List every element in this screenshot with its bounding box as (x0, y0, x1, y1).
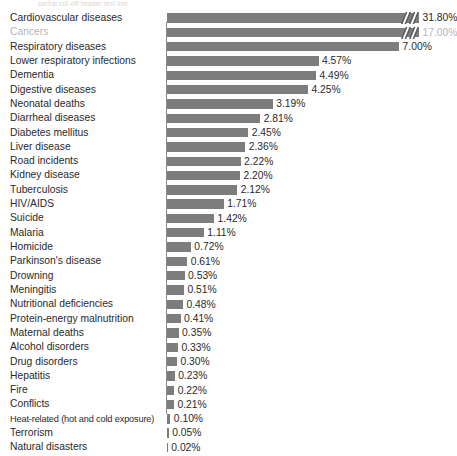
bar-value-label: 2.12% (237, 185, 270, 194)
bar-and-value: 0.22% (167, 386, 207, 395)
category-label: Heat-related (hot and cold exposure) (10, 412, 162, 426)
category-label: Malaria (10, 226, 162, 240)
bar (167, 214, 214, 223)
cut-off-header-text: partial cut-off header text line (38, 0, 438, 7)
bar-value-label: 3.19% (273, 99, 306, 108)
bar (167, 56, 319, 65)
bar-value-label: 2.45% (248, 128, 281, 137)
bar (167, 257, 187, 266)
bar-row: Malaria1.11% (0, 226, 446, 240)
category-label: Neonatal deaths (10, 97, 162, 111)
bar (167, 85, 308, 94)
bar-and-value: 0.05% (167, 428, 201, 437)
bar-and-value: 2.36% (167, 142, 278, 151)
category-label: Parkinson's disease (10, 254, 162, 268)
bar-and-value: 0.48% (167, 300, 216, 309)
bar-row: Lower respiratory infections4.57% (0, 54, 446, 68)
bar-row: Hepatitis0.23% (0, 369, 446, 383)
category-label: Meningitis (10, 283, 162, 297)
bar-value-label: 0.33% (178, 343, 211, 352)
bar-row: Drowning0.53% (0, 269, 446, 283)
bar-and-value: 3.19% (167, 99, 305, 108)
bar-value-label: 0.22% (174, 386, 207, 395)
bar-and-value: 0.72% (167, 242, 224, 251)
bar-row: Diarrheal diseases2.81% (0, 111, 446, 125)
bar (167, 142, 245, 151)
bar-value-label: 0.53% (185, 271, 218, 280)
category-label: Lower respiratory infections (10, 54, 162, 68)
bar (167, 328, 179, 337)
bar (167, 128, 248, 137)
bar-and-value: 4.25% (167, 85, 341, 94)
bar-row: Kidney disease2.20% (0, 168, 446, 182)
category-label: Drowning (10, 269, 162, 283)
bar (167, 314, 181, 323)
bar (167, 199, 224, 208)
bar-row: HIV/AIDS1.71% (0, 197, 446, 211)
bar-row: Diabetes mellitus2.45% (0, 126, 446, 140)
category-label: Homicide (10, 240, 162, 254)
bar-row: Cancers17.00% (0, 25, 446, 39)
bar-and-value: 2.20% (167, 171, 273, 180)
bar-and-value: 17.00% (167, 28, 457, 37)
bar-value-label: 4.49% (316, 71, 349, 80)
category-label: Diabetes mellitus (10, 126, 162, 140)
category-label: Cardiovascular diseases (10, 11, 162, 25)
bar-value-label: 1.71% (224, 199, 257, 208)
bar (167, 343, 178, 352)
bar (167, 71, 316, 80)
category-label: Alcohol disorders (10, 340, 162, 354)
bar-value-label: 17.00% (419, 28, 457, 37)
bar-and-value: 2.81% (167, 114, 293, 123)
bar-row: Tuberculosis2.12% (0, 183, 446, 197)
bar (167, 242, 191, 251)
bar (167, 171, 240, 180)
bar-value-label: 0.35% (179, 328, 212, 337)
bar-and-value: 0.02% (167, 443, 201, 452)
bar-and-value: 0.53% (167, 271, 217, 280)
bar-row: Homicide0.72% (0, 240, 446, 254)
bar-value-label: 2.22% (241, 157, 274, 166)
bar-and-value: 0.35% (167, 328, 211, 337)
bar-value-label: 2.20% (240, 171, 273, 180)
bar-and-value: 2.22% (167, 157, 273, 166)
category-label: Dementia (10, 68, 162, 82)
category-label: Maternal deaths (10, 326, 162, 340)
bar-value-label: 0.10% (170, 414, 203, 423)
bar (167, 271, 185, 280)
bar (167, 157, 241, 166)
bar-row: Maternal deaths0.35% (0, 326, 446, 340)
bar-and-value: 1.11% (167, 228, 236, 237)
bar (167, 400, 174, 409)
bar (167, 114, 260, 123)
category-label: Nutritional deficiencies (10, 297, 162, 311)
bar (167, 185, 237, 194)
bar-and-value: 1.71% (167, 199, 256, 208)
bar-value-label: 0.41% (181, 314, 214, 323)
bar-and-value: 0.51% (167, 285, 217, 294)
bar-value-label: 0.30% (177, 357, 210, 366)
bar-and-value: 4.57% (167, 56, 351, 65)
bar-row: Road incidents2.22% (0, 154, 446, 168)
category-label: Protein-energy malnutrition (10, 312, 162, 326)
bar (167, 285, 184, 294)
bar-row: Alcohol disorders0.33% (0, 340, 446, 354)
category-label: Natural disasters (10, 440, 162, 454)
bar-row: Parkinson's disease0.61% (0, 254, 446, 268)
category-label: Fire (10, 383, 162, 397)
category-label: Conflicts (10, 397, 162, 411)
category-label: Drug disorders (10, 355, 162, 369)
bar-value-label: 4.25% (308, 85, 341, 94)
bar-row: Dementia4.49% (0, 68, 446, 82)
category-label: Suicide (10, 211, 162, 225)
category-label: Tuberculosis (10, 183, 162, 197)
bar (167, 28, 419, 37)
bar-row: Protein-energy malnutrition0.41% (0, 312, 446, 326)
category-label: Terrorism (10, 426, 162, 440)
category-label: Hepatitis (10, 369, 162, 383)
bar-row: Respiratory diseases7.00% (0, 40, 446, 54)
bar-and-value: 4.49% (167, 71, 349, 80)
bar-row: Terrorism0.05% (0, 426, 446, 440)
bar-value-label: 0.05% (169, 428, 202, 437)
bar-value-label: 0.51% (184, 285, 217, 294)
